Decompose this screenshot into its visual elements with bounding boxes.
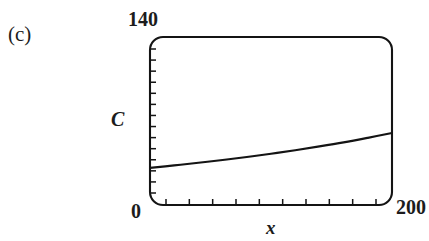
plot-area	[0, 0, 429, 241]
plot-frame	[150, 37, 392, 205]
data-curve-line	[150, 133, 392, 168]
figure-panel: (c) 140 0 200 C x	[0, 0, 429, 241]
